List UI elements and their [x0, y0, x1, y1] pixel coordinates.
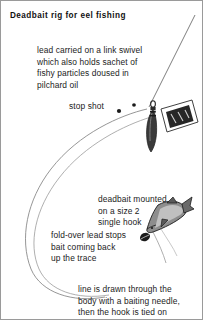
annotation-fold-over-lead: fold-over lead stops bait coming back up…: [51, 230, 126, 265]
lead-weight-group: [147, 101, 157, 152]
annotation-stop-shot: stop shot: [69, 101, 104, 113]
figure-title: Deadbait rig for eel fishing: [10, 10, 126, 22]
hook-link-line-2: [161, 229, 177, 256]
main-line: [149, 15, 195, 107]
stop-shot-bead-2: [132, 103, 136, 106]
figure-panel: Deadbait rig for eel fishing lead carrie…: [0, 0, 203, 320]
fish-tail: [182, 197, 194, 213]
hook-link-line: [153, 232, 166, 263]
stop-shot-bead-1: [117, 109, 121, 113]
annotation-baiting-needle: line is drawn through the body with a ba…: [78, 284, 180, 319]
particle-sachet-group: [161, 100, 198, 132]
annotation-lead-swivel: lead carried on a link swivel which also…: [37, 45, 142, 91]
annotation-deadbait: deadbait mounted on a size 2 single hook: [98, 194, 167, 229]
fish-dorsal-fin: [167, 197, 177, 203]
